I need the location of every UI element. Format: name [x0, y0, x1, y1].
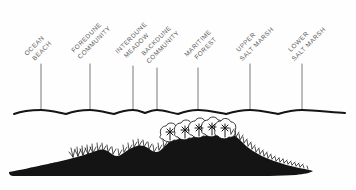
zonation-illustration: OCEAN BEACH FOREDUNE COMMUNITY INTERDUNE…	[0, 0, 356, 190]
coastal-zonation-diagram: OCEAN BEACH FOREDUNE COMMUNITY INTERDUNE…	[0, 0, 356, 190]
